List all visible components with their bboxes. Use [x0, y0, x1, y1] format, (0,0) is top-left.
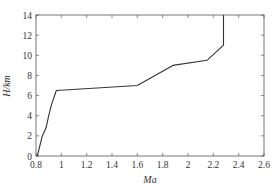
x-tick-label: 1.6: [131, 160, 143, 170]
x-axis-ticks: 0.811.21.41.61.822.22.42.6: [30, 15, 270, 170]
y-tick-label: 2: [27, 131, 32, 141]
series-line: [37, 15, 223, 156]
data-series: [37, 15, 223, 156]
x-tick-label: 2.4: [233, 160, 245, 170]
x-axis-label: Ma: [142, 174, 156, 185]
y-axis-label: H/km: [1, 75, 12, 98]
x-tick-label: 1: [59, 160, 64, 170]
plot-border: [36, 15, 264, 156]
plot-area-frame: [36, 15, 264, 156]
x-tick-label: 2.6: [258, 160, 270, 170]
y-tick-label: 8: [27, 71, 32, 81]
x-tick-label: 2: [186, 160, 191, 170]
x-tick-label: 1.2: [81, 160, 93, 170]
line-chart: 0.811.21.41.61.822.22.42.6 02468101214 M…: [0, 0, 280, 193]
y-tick-label: 10: [23, 51, 33, 61]
y-tick-label: 12: [23, 31, 33, 41]
x-tick-label: 1.8: [157, 160, 169, 170]
x-tick-label: 2.2: [207, 160, 219, 170]
x-tick-label: 0.8: [30, 160, 42, 170]
x-tick-label: 1.4: [106, 160, 118, 170]
y-tick-label: 6: [27, 91, 32, 101]
y-axis-ticks: 02468101214: [23, 11, 265, 162]
y-tick-label: 14: [23, 11, 33, 21]
y-tick-label: 4: [27, 111, 32, 121]
y-tick-label: 0: [27, 152, 32, 162]
